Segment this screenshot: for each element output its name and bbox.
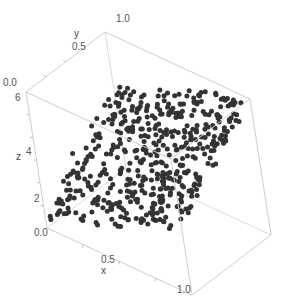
data-point [174, 172, 179, 177]
data-point [101, 198, 106, 203]
data-point [105, 191, 110, 196]
data-point [146, 121, 151, 126]
x-tick-label-0: 0.0 [34, 227, 48, 238]
axis-ticks [27, 45, 156, 281]
data-point [125, 195, 130, 200]
data-point [94, 116, 99, 121]
data-point [181, 101, 186, 106]
data-point [108, 176, 113, 181]
data-point [195, 102, 200, 107]
data-point [194, 187, 199, 192]
data-point [65, 174, 70, 179]
data-point [132, 181, 137, 186]
data-point [136, 174, 141, 179]
data-point [161, 143, 166, 148]
data-point [118, 169, 123, 174]
data-point [80, 167, 85, 172]
data-point [162, 93, 167, 98]
bounding-box-front-edges [26, 32, 271, 295]
data-point [212, 144, 217, 149]
data-point [160, 112, 165, 117]
data-point [212, 134, 217, 139]
data-point [151, 192, 156, 197]
data-point [216, 115, 221, 120]
data-point [230, 125, 235, 130]
data-point [222, 125, 227, 130]
data-point [155, 176, 160, 181]
data-point [123, 149, 128, 154]
data-point [151, 186, 156, 191]
data-point [139, 134, 144, 139]
data-point [118, 214, 123, 219]
data-point [110, 202, 115, 207]
x-tick-label-05: 0.5 [101, 254, 115, 265]
data-point [128, 92, 133, 97]
y-tick-label-1: 1.0 [116, 13, 130, 24]
data-point [119, 122, 124, 127]
data-point [134, 155, 139, 160]
data-point [187, 189, 192, 194]
data-point [88, 174, 93, 179]
data-point [118, 224, 123, 229]
data-point [199, 99, 204, 104]
data-point [237, 119, 242, 124]
data-point [226, 104, 231, 109]
data-point [189, 194, 194, 199]
data-point [153, 218, 158, 223]
data-point [135, 200, 140, 205]
data-point [101, 120, 106, 125]
data-point [144, 213, 149, 218]
data-point [90, 201, 95, 206]
data-point [166, 204, 171, 209]
data-point [66, 210, 71, 215]
data-point [121, 208, 126, 213]
data-point [172, 93, 177, 98]
data-point [234, 112, 239, 117]
data-point [95, 223, 100, 228]
data-point [110, 182, 115, 187]
data-point [105, 209, 110, 214]
data-point [110, 122, 115, 127]
data-point [194, 175, 199, 180]
data-point [56, 210, 61, 215]
data-point [117, 85, 122, 90]
data-point [189, 113, 194, 118]
data-point [179, 163, 184, 168]
data-point [66, 181, 71, 186]
data-point [156, 121, 161, 126]
data-point [91, 138, 96, 143]
data-point [187, 88, 192, 93]
data-point [173, 111, 178, 116]
data-point [100, 170, 105, 175]
data-point [209, 109, 214, 114]
data-point [180, 156, 185, 161]
data-point [233, 100, 238, 105]
data-point [227, 117, 232, 122]
data-point [147, 127, 152, 132]
data-point [182, 128, 187, 133]
data-point [150, 212, 155, 217]
data-point [153, 132, 158, 137]
data-point [193, 156, 198, 161]
data-point [125, 189, 130, 194]
data-point [142, 191, 147, 196]
data-point [126, 217, 131, 222]
data-point [110, 112, 115, 117]
data-point [145, 222, 150, 227]
data-point [95, 202, 100, 207]
x-axis-label: x [101, 265, 106, 276]
data-point [139, 183, 144, 188]
data-point [123, 90, 128, 95]
data-point [106, 117, 111, 122]
data-point [79, 217, 84, 222]
data-point [140, 178, 145, 183]
data-point [178, 175, 183, 180]
data-point [102, 103, 107, 108]
data-point [203, 135, 208, 140]
data-point [130, 124, 135, 129]
data-point [100, 205, 105, 210]
data-point [125, 86, 130, 91]
data-point [144, 105, 149, 110]
data-point [148, 153, 153, 158]
data-point [157, 87, 162, 92]
